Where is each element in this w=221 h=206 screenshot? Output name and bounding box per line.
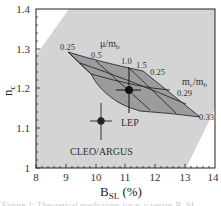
mc-0-33-label: 0.33 xyxy=(199,112,214,122)
y-tick-label: 1.4 xyxy=(16,3,30,15)
y-tick-label: 1.2 xyxy=(16,82,30,94)
mc-0-25-label: 0.25 xyxy=(150,67,165,77)
y-tick-label: 1.3 xyxy=(16,43,30,55)
y-axis-title: nc xyxy=(0,86,17,97)
cleo-argus-label: CLEO/ARGUS xyxy=(70,146,133,157)
chart-plot: 1 1.1 1.2 1.3 1.4 8 9 10 11 12 13 14 BSL… xyxy=(0,0,221,206)
x-tick-label: 9 xyxy=(63,171,69,183)
mc-0-29-label: 0.29 xyxy=(177,88,192,98)
figure-caption: Figure 1: Theoretical predictions for n_… xyxy=(2,200,197,206)
x-tick-label: 12 xyxy=(150,171,161,183)
y-tick-labels: 1 1.1 1.2 1.3 1.4 xyxy=(16,3,30,174)
x-tick-label: 13 xyxy=(180,171,192,183)
mu-1-5-label: 1.5 xyxy=(136,60,147,70)
x-tick-label: 14 xyxy=(208,171,220,183)
mu-1-0-label: 1.0 xyxy=(121,56,132,66)
y-tick-label: 1.1 xyxy=(16,122,30,134)
mu-0-5-label: 0.5 xyxy=(91,50,102,60)
mu-0-25-label: 0.25 xyxy=(60,42,75,52)
x-tick-labels: 8 9 10 11 12 13 14 xyxy=(33,171,219,183)
lep-label: LEP xyxy=(121,117,139,128)
x-tick-label: 10 xyxy=(91,171,103,183)
x-axis-title: BSL (%) xyxy=(100,184,142,201)
x-tick-label: 8 xyxy=(33,171,39,183)
y-tick-label: 1 xyxy=(25,162,31,174)
x-tick-label: 11 xyxy=(120,171,131,183)
